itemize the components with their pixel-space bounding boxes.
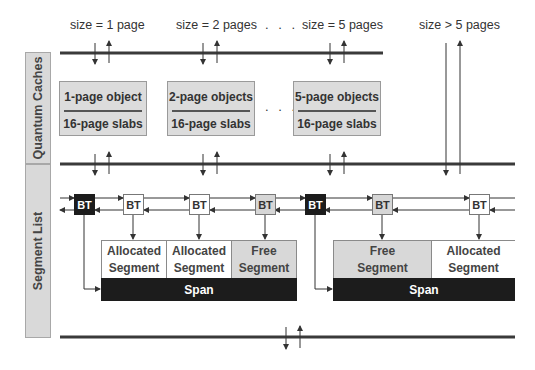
cache-object-size: 2-page objects	[168, 90, 254, 104]
size-1-page-label: size = 1 page	[70, 18, 145, 32]
segment-free: FreeSegment	[333, 240, 432, 279]
boundary-tag-allocated: BT	[123, 194, 144, 215]
cache-slab-size: 16-page slabs	[60, 117, 146, 131]
boundary-tag-span-2: BT	[305, 194, 326, 215]
size-2-pages-label: size = 2 pages	[176, 18, 257, 32]
divider	[298, 110, 376, 112]
quantum-caches-section: Quantum Caches	[25, 52, 51, 164]
quantum-caches-label: Quantum Caches	[31, 57, 45, 160]
span-2: Span	[333, 278, 515, 301]
segment-word: Segment	[109, 261, 160, 275]
boundary-tag-free: BT	[372, 194, 393, 215]
segment-allocated: AllocatedSegment	[101, 240, 167, 279]
boundary-tag-allocated: BT	[469, 194, 490, 215]
boundary-tag-free: BT	[255, 194, 276, 215]
segment-free: FreeSegment	[231, 240, 297, 279]
cache-1-page: 1-page object 16-page slabs	[59, 81, 147, 136]
segment-word: Segment	[239, 261, 290, 275]
boundary-tag-allocated: BT	[189, 194, 210, 215]
segment-state: Allocated	[107, 244, 161, 258]
boundary-tag-span-1: BT	[74, 194, 95, 215]
size-gt-5-pages-label: size > 5 pages	[419, 18, 500, 32]
cache-object-size: 1-page object	[60, 90, 146, 104]
segment-list-label: Segment List	[31, 212, 45, 291]
ellipsis-top: . . .	[265, 17, 298, 32]
cache-2-pages: 2-page objects 16-page slabs	[167, 81, 255, 136]
segment-state: Free	[370, 244, 395, 258]
segment-word: Segment	[448, 261, 499, 275]
cache-slab-size: 16-page slabs	[294, 117, 380, 131]
divider	[64, 110, 142, 112]
diagram-connectors	[0, 0, 535, 370]
cache-5-pages: 5-page objects 16-page slabs	[293, 81, 381, 136]
size-5-pages-label: size = 5 pages	[302, 18, 383, 32]
segment-state: Allocated	[446, 244, 500, 258]
segment-list-section: Segment List	[25, 164, 51, 338]
segment-state: Allocated	[172, 244, 226, 258]
cache-slab-size: 16-page slabs	[168, 117, 254, 131]
segment-allocated: AllocatedSegment	[431, 240, 515, 279]
cache-object-size: 5-page objects	[294, 90, 380, 104]
segment-state: Free	[251, 244, 276, 258]
segment-word: Segment	[357, 261, 408, 275]
span-1: Span	[101, 278, 297, 301]
divider	[172, 110, 250, 112]
segment-allocated: AllocatedSegment	[166, 240, 232, 279]
segment-word: Segment	[174, 261, 225, 275]
